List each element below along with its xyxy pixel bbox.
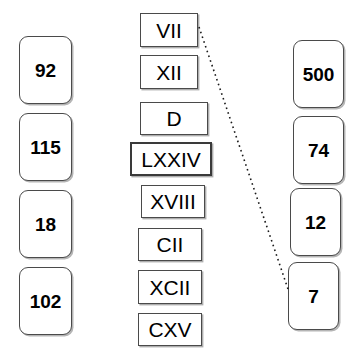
number-card-102[interactable]: 102	[19, 267, 72, 335]
roman-card-label: D	[166, 108, 181, 129]
number-card-12[interactable]: 12	[290, 188, 341, 256]
roman-card-label: LXXIV	[141, 149, 201, 170]
roman-card-label: CII	[157, 234, 184, 255]
number-card-7[interactable]: 7	[288, 262, 339, 330]
number-card-label: 12	[305, 213, 326, 232]
roman-card-vii[interactable]: VII	[140, 13, 198, 47]
roman-card-cxv[interactable]: CXV	[138, 313, 202, 346]
number-card-18[interactable]: 18	[19, 190, 72, 258]
roman-card-cii[interactable]: CII	[138, 228, 202, 261]
number-card-label: 92	[35, 61, 56, 80]
roman-card-d[interactable]: D	[140, 102, 208, 135]
roman-card-xviii[interactable]: XVIII	[141, 185, 205, 218]
roman-card-label: XVIII	[150, 191, 196, 212]
roman-card-xii[interactable]: XII	[140, 55, 198, 89]
number-card-label: 18	[35, 215, 56, 234]
roman-card-xcii[interactable]: XCII	[138, 270, 202, 304]
roman-card-lxxiv[interactable]: LXXIV	[130, 142, 212, 176]
roman-card-label: XII	[156, 62, 182, 83]
number-card-74[interactable]: 74	[293, 116, 344, 184]
roman-card-label: CXV	[148, 319, 191, 340]
number-card-label: 500	[303, 65, 335, 84]
connector-vii-to-7[interactable]	[199, 27, 288, 289]
number-card-label: 115	[30, 138, 61, 157]
roman-card-label: VII	[156, 20, 182, 41]
number-card-115[interactable]: 115	[19, 113, 72, 181]
roman-card-label: XCII	[150, 277, 191, 298]
number-card-label: 74	[308, 141, 329, 160]
number-card-label: 7	[308, 287, 319, 306]
number-card-label: 102	[30, 292, 62, 311]
number-card-92[interactable]: 92	[19, 36, 72, 104]
number-card-500[interactable]: 500	[293, 40, 344, 108]
matching-exercise-canvas: 9211518102 VIIXIIDLXXIVXVIIICIIXCIICXV 5…	[0, 0, 361, 358]
